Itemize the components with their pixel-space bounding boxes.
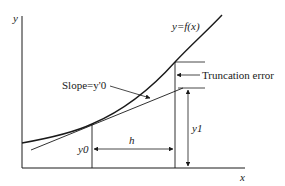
y1-label: y1 <box>191 122 202 134</box>
curve-label: y=f(x) <box>171 20 200 33</box>
y-axis-label: y <box>12 12 18 24</box>
tangent-line <box>31 88 183 150</box>
euler-diagram: y x y=f(x) Slope=y'0 Truncation error h … <box>0 0 285 186</box>
h-label: h <box>129 134 135 146</box>
slope-label: Slope=y'0 <box>62 79 107 91</box>
y0-label: y0 <box>77 143 89 155</box>
x-axis-label: x <box>239 171 245 183</box>
truncation-label: Truncation error <box>202 69 274 81</box>
